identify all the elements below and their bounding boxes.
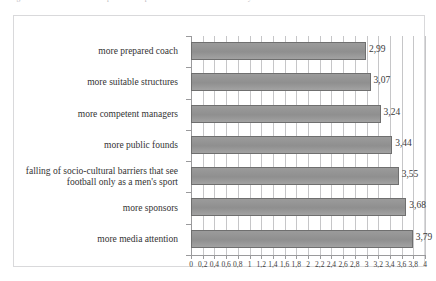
bar-row[interactable]: 3,55 [191, 161, 425, 192]
x-axis-tick [355, 255, 356, 259]
x-axis-tick-label: 0,6 [221, 260, 230, 269]
bar-value-label: 3,79 [413, 232, 433, 242]
category-label: more suitable structures [16, 77, 178, 88]
x-axis-tick [261, 255, 262, 259]
x-axis-tick-label: 0 [189, 260, 193, 269]
bar[interactable] [191, 73, 371, 91]
x-axis-tick-label: 0,4 [210, 260, 219, 269]
x-axis-tick-labels: 00,20,40,60,811,21,41,61,822,22,42,62,83… [0, 260, 436, 274]
category-tick [186, 36, 191, 37]
bar[interactable] [191, 42, 366, 60]
x-axis-tick-label: 1,6 [280, 260, 289, 269]
bar-value-label: 3,68 [406, 200, 426, 210]
bar-row[interactable]: 3,24 [191, 99, 425, 130]
x-axis-tick [238, 255, 239, 259]
gridline [425, 36, 426, 255]
plot-area: 2,993,073,243,443,553,683,79 [178, 36, 425, 255]
x-axis-tick-label: 3,4 [385, 260, 394, 269]
category-label: more media attention [16, 234, 178, 245]
x-axis-tick-label: 1,8 [292, 260, 301, 269]
x-axis-tick-label: 1,2 [257, 260, 266, 269]
x-axis-tick-label: 2,8 [350, 260, 359, 269]
category-axis-labels: more prepared coachmore suitable structu… [16, 36, 178, 255]
x-axis-tick-label: 2,4 [327, 260, 336, 269]
x-axis-tick-label: 1,4 [268, 260, 277, 269]
bar-value-label: 3,24 [381, 107, 401, 117]
x-axis-tick [320, 255, 321, 259]
x-axis-tick [367, 255, 368, 259]
x-axis-tick-label: 3,6 [397, 260, 406, 269]
x-axis-tick-label: 3,8 [409, 260, 418, 269]
x-axis-tick-label: 2,6 [338, 260, 347, 269]
bar-value-label: 3,07 [371, 75, 391, 85]
bar-row[interactable]: 2,99 [191, 36, 425, 67]
x-axis-tick [413, 255, 414, 259]
x-axis-tick [308, 255, 309, 259]
figure-caption: Figure 4. Factors that could help the de… [0, 0, 436, 3]
bar[interactable] [191, 230, 413, 248]
x-axis-tick-label: 0,8 [233, 260, 242, 269]
x-axis-tick-label: 3 [365, 260, 369, 269]
x-axis-tick [343, 255, 344, 259]
bar-row[interactable]: 3,79 [191, 224, 425, 255]
x-axis-tick [378, 255, 379, 259]
x-axis-tick [191, 255, 192, 259]
x-axis-tick [296, 255, 297, 259]
bar-row[interactable]: 3,07 [191, 67, 425, 98]
plot-inner: 2,993,073,243,443,553,683,79 [191, 36, 425, 255]
category-tick [186, 224, 191, 225]
chart-screenshot: Figure 4. Factors that could help the de… [0, 0, 436, 281]
bar[interactable] [191, 198, 406, 216]
bar[interactable] [191, 105, 381, 123]
category-tick [186, 192, 191, 193]
x-axis-tick-label: 2,2 [315, 260, 324, 269]
category-tick [186, 130, 191, 131]
x-axis-tick [273, 255, 274, 259]
category-tick [186, 67, 191, 68]
x-axis-tick-label: 3,2 [374, 260, 383, 269]
category-label: falling of socio-cultural barriers that … [16, 166, 178, 188]
x-axis-tick [203, 255, 204, 259]
x-axis-tick [402, 255, 403, 259]
x-axis-tick [425, 255, 426, 259]
bar[interactable] [191, 167, 399, 185]
x-axis-tick [250, 255, 251, 259]
category-label: more sponsors [16, 203, 178, 214]
x-axis-tick [285, 255, 286, 259]
figure-caption-text: Figure 4. Factors that could help the de… [0, 0, 436, 2]
bar-value-label: 2,99 [366, 44, 386, 54]
category-label: more competent managers [16, 109, 178, 120]
x-axis-tick-label: 4 [423, 260, 427, 269]
x-axis-tick [331, 255, 332, 259]
x-axis-tick-label: 1 [248, 260, 252, 269]
x-axis-tick [226, 255, 227, 259]
bar-row[interactable]: 3,68 [191, 192, 425, 223]
bar[interactable] [191, 136, 392, 154]
category-tick [186, 99, 191, 100]
x-axis-tick-label: 0,2 [198, 260, 207, 269]
x-axis-tick [214, 255, 215, 259]
bar-value-label: 3,55 [399, 169, 419, 179]
bar-row[interactable]: 3,44 [191, 130, 425, 161]
bar-value-label: 3,44 [392, 138, 412, 148]
category-label: more public founds [16, 140, 178, 151]
category-tick [186, 161, 191, 162]
x-axis-tick [390, 255, 391, 259]
category-label: more prepared coach [16, 46, 178, 57]
x-axis-tick-label: 2 [306, 260, 310, 269]
